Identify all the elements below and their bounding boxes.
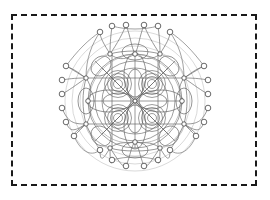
network-graph-figure [0, 0, 270, 200]
figure-canvas [0, 0, 270, 200]
graph-edges [62, 25, 208, 171]
right-column-nodes [193, 63, 211, 139]
left-column-nodes [59, 63, 77, 139]
